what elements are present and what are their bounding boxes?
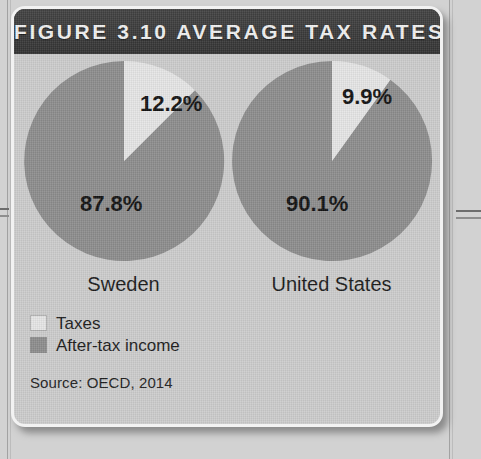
figure-card: FIGURE 3.10 AVERAGE TAX RATES 12.2% 87.8… (11, 6, 443, 427)
pie-value-taxes: 9.9% (342, 84, 392, 109)
pie-svg-united-states: 9.9% 90.1% (230, 59, 434, 263)
legend-swatch-taxes-icon (30, 315, 47, 331)
page-edge-mark-left-upper (0, 208, 9, 210)
pie-chart-united-states: 9.9% 90.1% United States (229, 54, 434, 304)
legend-item-taxes: Taxes (30, 312, 180, 334)
pie-country-label-sweden: Sweden (21, 273, 226, 296)
pie-value-taxes: 12.2% (140, 91, 202, 116)
pie-country-label-united-states: United States (229, 273, 434, 296)
page-gutter-line-right-inner (452, 0, 453, 459)
figure-source-note: Source: OECD, 2014 (30, 374, 173, 391)
legend-item-after-tax-income: After-tax income (30, 334, 180, 356)
pie-svg-sweden: 12.2% 87.8% (22, 59, 226, 263)
page-gutter-line-right-outer (449, 0, 450, 459)
figure-title: FIGURE 3.10 AVERAGE TAX RATES (14, 20, 440, 44)
legend-label-taxes: Taxes (56, 315, 100, 332)
figure-header-bar: FIGURE 3.10 AVERAGE TAX RATES (14, 9, 440, 54)
page-gutter-line-left-outer (7, 0, 8, 459)
page-edge-mark-right-upper (456, 210, 481, 212)
pie-value-after-tax-income: 87.8% (80, 191, 142, 216)
pie-value-after-tax-income: 90.1% (286, 191, 348, 216)
page-edge-mark-left-lower (0, 215, 9, 217)
page-edge-mark-right-lower (456, 217, 481, 219)
figure-body: 12.2% 87.8% Sweden 9.9% 90.1% United Sta… (14, 54, 440, 424)
legend-swatch-after-tax-income-icon (30, 337, 47, 353)
pie-chart-group: 12.2% 87.8% Sweden 9.9% 90.1% United Sta… (14, 54, 440, 304)
legend-label-after-tax-income: After-tax income (56, 337, 180, 354)
pie-chart-sweden: 12.2% 87.8% Sweden (21, 54, 226, 304)
chart-legend: Taxes After-tax income (30, 312, 180, 356)
